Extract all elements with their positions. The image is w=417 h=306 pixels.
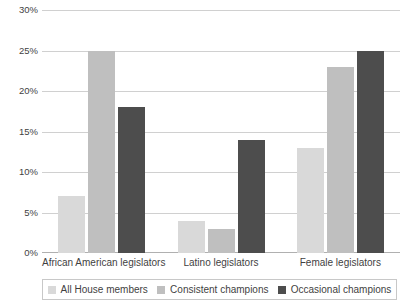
legend-swatch-icon — [157, 286, 165, 294]
x-axis-category-labels: African American legislatorsLatino legis… — [42, 256, 400, 272]
bar — [357, 51, 384, 254]
x-axis-tick-label: Latino legislators — [161, 256, 280, 270]
bar — [118, 107, 145, 253]
legend-label: All House members — [61, 285, 148, 295]
y-axis-tick-label: 20% — [0, 86, 38, 96]
y-axis-tick-label: 0% — [0, 248, 38, 258]
bar-chart: 0%5%10%15%20%25%30% African American leg… — [0, 0, 417, 306]
y-axis-tick-label: 5% — [0, 208, 38, 218]
legend-swatch-icon — [48, 286, 56, 294]
legend-swatch-icon — [278, 286, 286, 294]
bar — [178, 221, 205, 253]
legend-item[interactable]: Occasional champions — [278, 285, 392, 295]
legend-label: Consistent champions — [170, 285, 268, 295]
y-axis-tick-label: 25% — [0, 46, 38, 56]
bar — [297, 148, 324, 253]
x-axis-tick-label: African American legislators — [42, 256, 161, 270]
legend-item[interactable]: Consistent champions — [157, 285, 268, 295]
chart-legend: All House membersConsistent championsOcc… — [42, 279, 397, 300]
y-axis-tick-label: 30% — [0, 5, 38, 15]
gridline-30% — [42, 10, 400, 11]
bar — [327, 67, 354, 253]
bar — [88, 51, 115, 254]
bar — [208, 229, 235, 253]
y-axis-tick-label: 15% — [0, 127, 38, 137]
bar — [238, 140, 265, 253]
y-axis: 0%5%10%15%20%25%30% — [0, 10, 38, 253]
legend-item[interactable]: All House members — [48, 285, 148, 295]
legend-label: Occasional champions — [291, 285, 392, 295]
plot-area — [42, 10, 400, 253]
bar — [58, 196, 85, 253]
x-axis-tick-label: Female legislators — [281, 256, 400, 270]
y-axis-tick-label: 10% — [0, 167, 38, 177]
